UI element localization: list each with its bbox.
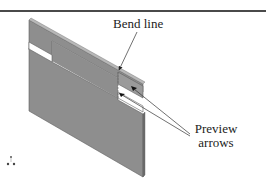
sheet-metal-plate	[29, 18, 145, 177]
plate-right-edge	[143, 112, 145, 177]
preview-arrows-label: Preview arrows	[190, 122, 242, 150]
bend-line-leader	[119, 32, 137, 70]
preview-label-line2: arrows	[190, 136, 242, 150]
bend-line-label: Bend line	[113, 17, 163, 31]
preview-label-line1: Preview	[190, 122, 242, 136]
coordinate-triad-icon	[7, 156, 15, 165]
